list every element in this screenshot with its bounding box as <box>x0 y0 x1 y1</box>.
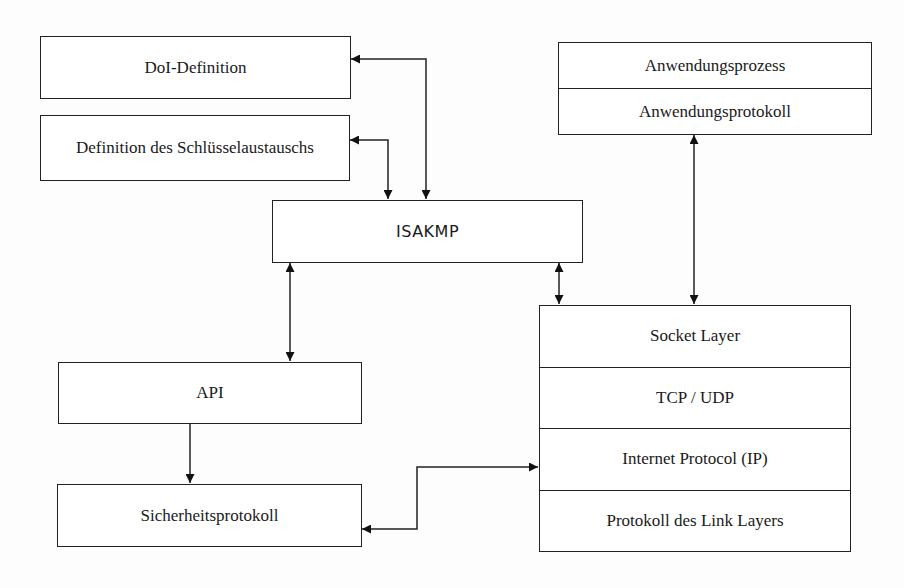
application-process-label: Anwendungsprozess <box>645 56 786 76</box>
isakmp-label: ISAKMP <box>396 222 459 241</box>
ip-layer: Internet Protocol (IP) <box>540 428 850 490</box>
arrow-keyexchange-isakmp <box>350 140 388 199</box>
ip-label: Internet Protocol (IP) <box>622 449 767 469</box>
application-protocol-layer: Anwendungsprotokoll <box>559 88 871 134</box>
link-layer-label: Protokoll des Link Layers <box>606 511 783 531</box>
key-exchange-definition-box: Definition des Schlüsselaustauschs <box>40 115 350 181</box>
arrow-security-ip <box>362 467 538 529</box>
link-layer: Protokoll des Link Layers <box>540 490 850 552</box>
doi-definition-box: DoI-Definition <box>40 36 351 99</box>
application-stack: Anwendungsprozess Anwendungsprotokoll <box>558 42 872 135</box>
security-protocol-label: Sicherheitsprotokoll <box>141 506 279 526</box>
network-stack: Socket Layer TCP / UDP Internet Protocol… <box>539 305 851 552</box>
key-exchange-definition-label: Definition des Schlüsselaustauschs <box>76 138 314 158</box>
socket-layer: Socket Layer <box>540 306 850 367</box>
application-process-layer: Anwendungsprozess <box>559 43 871 88</box>
tcp-udp-layer: TCP / UDP <box>540 367 850 429</box>
tcp-udp-label: TCP / UDP <box>656 388 734 408</box>
security-protocol-box: Sicherheitsprotokoll <box>57 484 362 547</box>
doi-definition-label: DoI-Definition <box>145 58 247 78</box>
isakmp-box: ISAKMP <box>272 200 583 263</box>
socket-layer-label: Socket Layer <box>650 326 740 346</box>
application-protocol-label: Anwendungsprotokoll <box>639 102 791 122</box>
api-box: API <box>58 362 362 424</box>
api-label: API <box>196 383 223 403</box>
